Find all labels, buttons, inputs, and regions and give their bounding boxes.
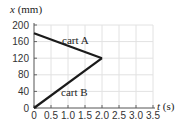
position-time-chart: 00.51.01.52.02.53.03.504080120160200 x (… [0,0,183,128]
x-tick-label: 1.5 [78,110,92,121]
y-tick-label: 0 [23,103,29,114]
y-tick-label: 120 [12,53,29,64]
x-axis-label: t (s) [157,100,175,113]
x-tick-label: 0 [31,110,37,121]
x-tick-label: 2.0 [95,110,109,121]
cart-b-label: cart B [61,86,88,98]
y-axis-label: x (mm) [9,3,42,16]
y-tick-label: 160 [12,36,29,47]
x-tick-label: 3.0 [129,110,143,121]
cart-a-label: cart A [62,34,89,46]
x-tick-label: 2.5 [112,110,126,121]
y-tick-label: 200 [12,20,29,31]
x-tick-label: 1.0 [61,110,75,121]
y-tick-label: 80 [18,69,30,80]
y-tick-label: 40 [18,86,30,97]
x-tick-label: 0.5 [44,110,58,121]
